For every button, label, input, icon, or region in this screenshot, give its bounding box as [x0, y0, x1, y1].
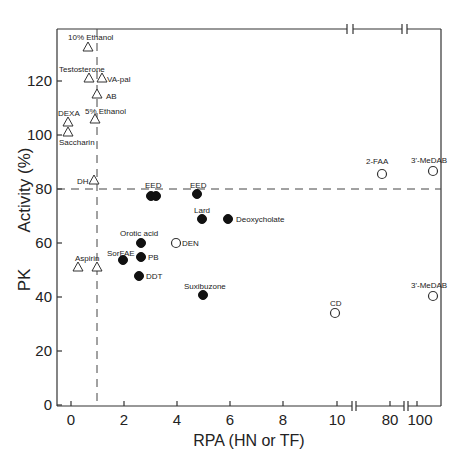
point-labels: 10% Ethanol Testosterone VA-pal AB 5% Et…: [58, 33, 447, 308]
x-tick-80: 80: [382, 411, 399, 428]
x-tick-100: 100: [407, 411, 432, 428]
x-tick-8: 8: [279, 411, 287, 428]
y-tick-120: 120: [27, 72, 52, 89]
point-vapal: [97, 73, 107, 82]
point-suxibuzone: [199, 291, 208, 300]
label-sorfae: SorFAE: [107, 249, 135, 258]
label-testosterone: Testosterone: [59, 65, 105, 74]
label-lard: Lard: [194, 206, 210, 215]
point-den: [172, 239, 181, 248]
point-cd: [331, 309, 340, 318]
label-dexa: DEXA: [58, 109, 80, 118]
point-3medab-low: [429, 292, 438, 301]
label-ab: AB: [106, 92, 117, 101]
point-saccharin: [63, 127, 73, 136]
x-axis-title: RPA (HN or TF): [193, 432, 304, 449]
point-lard: [198, 215, 207, 224]
x-axis-tick-labels: 0 2 4 6 8 10 80 100: [67, 411, 433, 428]
label-orotic-acid: Orotic acid: [120, 229, 158, 238]
y-tick-0: 0: [44, 396, 52, 413]
point-ddt: [135, 272, 144, 281]
x-tick-2: 2: [120, 411, 128, 428]
label-cd: CD: [330, 299, 342, 308]
point-aspirin-2: [92, 262, 102, 271]
point-eed-c: [193, 190, 202, 199]
point-ethanol10: [83, 42, 93, 51]
point-testosterone: [84, 73, 94, 82]
y-tick-80: 80: [35, 180, 52, 197]
y-tick-60: 60: [35, 234, 52, 251]
label-aspirin: Aspirin: [75, 254, 99, 263]
label-eed-1: EED: [145, 181, 162, 190]
point-pb: [137, 253, 146, 262]
label-vapal: VA-pal: [107, 75, 131, 84]
label-eed-2: EED: [190, 181, 207, 190]
y-tick-40: 40: [35, 288, 52, 305]
point-orotic-acid: [137, 239, 146, 248]
y-axis-tick-labels: 0 20 40 60 80 100 120: [27, 72, 52, 413]
y-axis-title-activity: Activity (%): [15, 148, 34, 233]
y-tick-100: 100: [27, 126, 52, 143]
y-axis-title-pk: PK: [15, 268, 34, 291]
label-pb: PB: [148, 253, 159, 262]
point-3medab-high: [429, 167, 438, 176]
label-ddt: DDT: [146, 272, 163, 281]
label-ethanol5: 5% Ethanol: [85, 107, 126, 116]
label-ethanol10: 10% Ethanol: [68, 33, 114, 42]
label-deoxycholate: Deoxycholate: [236, 215, 285, 224]
label-saccharin: Saccharin: [59, 138, 95, 147]
point-2faa: [378, 170, 387, 179]
y-axis-title: PK Activity (%): [15, 148, 34, 292]
x-tick-0: 0: [67, 411, 75, 428]
x-tick-10: 10: [329, 411, 346, 428]
y-axis-ticks: [57, 81, 62, 405]
point-dexa: [63, 117, 73, 126]
point-deoxycholate: [224, 215, 233, 224]
y-tick-20: 20: [35, 342, 52, 359]
scatter-chart: 0 20 40 60 80 100 120 0 2 4 6 8 10 80 10…: [0, 0, 462, 458]
point-aspirin-1: [73, 262, 83, 271]
label-2faa: 2-FAA: [366, 157, 389, 166]
point-eed-b: [152, 192, 161, 201]
x-tick-4: 4: [173, 411, 181, 428]
series-triangles: [63, 42, 107, 271]
label-den: DEN: [182, 239, 199, 248]
x-tick-6: 6: [226, 411, 234, 428]
x-axis-ticks: [71, 401, 417, 406]
label-suxibuzone: Suxibuzone: [184, 282, 226, 291]
label-3medab-high: 3'-MeDAB: [411, 156, 447, 165]
label-dh: DH: [77, 177, 89, 186]
point-ab: [92, 89, 102, 98]
label-3medab-low: 3'-MeDAB: [411, 281, 447, 290]
